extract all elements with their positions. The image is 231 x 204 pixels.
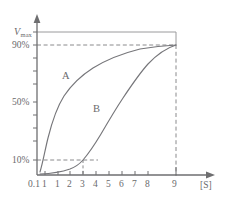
- y-axis-vmax-label: Vmax: [14, 26, 33, 38]
- x-tick-label-7: 6: [119, 179, 124, 189]
- curve-b-label: B: [93, 103, 100, 114]
- x-tick-label-6: 5: [106, 179, 111, 189]
- x-axis-arrow: [206, 172, 215, 179]
- y-axis-arrow: [34, 14, 41, 23]
- curves: [40, 45, 176, 174]
- y-tick-label-50: 50%: [12, 97, 30, 107]
- x-tick-label-5: 4: [93, 179, 98, 189]
- x-tick-label-1: 1: [42, 179, 47, 189]
- x-tick-label-8: 7: [132, 179, 137, 189]
- enzyme-kinetics-figure: A B Vmax 90% 50% 10% 0.1 1 1 2 3 4 5 6 7…: [0, 0, 231, 204]
- x-tick-label-3: 2: [67, 179, 72, 189]
- y-axis-vmax-subscript: max: [21, 31, 33, 38]
- curve-a-label: A: [62, 70, 70, 81]
- plot-canvas: A B Vmax 90% 50% 10% 0.1 1 1 2 3 4 5 6 7…: [0, 0, 231, 204]
- reference-lines: [37, 32, 176, 176]
- x-tick-label-10: 9: [172, 179, 177, 189]
- y-tick-label-10: 10%: [12, 155, 30, 165]
- y-tick-label-90: 90%: [12, 40, 30, 50]
- curve-a: [40, 45, 176, 172]
- x-axis-title: [S]: [200, 180, 212, 190]
- x-tick-label-4: 3: [80, 179, 85, 189]
- caption-strip: [0, 192, 231, 204]
- curve-b: [40, 45, 176, 174]
- x-tick-label-0: 0.1: [28, 179, 40, 189]
- x-tick-label-9: 8: [145, 179, 150, 189]
- x-tick-label-2: 1: [55, 179, 60, 189]
